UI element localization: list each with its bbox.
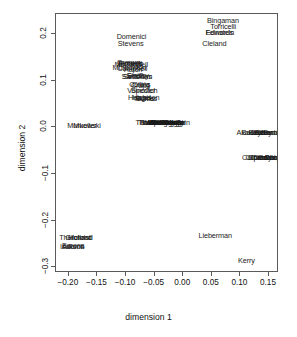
y-axis-tick	[51, 266, 55, 267]
x-axis-tick-label: 0.10	[231, 279, 247, 287]
y-axis-tick	[51, 80, 55, 81]
data-point-label: Nickles	[134, 95, 157, 102]
data-point-label: McCain	[166, 119, 190, 126]
data-point-label: Cleland	[202, 40, 226, 47]
data-point-label: Mueller	[73, 122, 96, 129]
x-axis-tick	[125, 272, 126, 276]
plot-area: BingamanTorricelliFeinsteinEdwardsClelan…	[55, 13, 278, 272]
x-axis-tick-label: −0.10	[115, 279, 136, 287]
y-axis-tick	[51, 126, 55, 127]
x-axis-tick	[239, 272, 240, 276]
x-axis-tick	[268, 272, 269, 276]
x-axis-title: dimension 1	[0, 312, 297, 322]
x-axis-tick-label: −0.05	[143, 279, 164, 287]
y-axis-title: dimension 2	[17, 88, 27, 208]
x-axis-tick	[68, 272, 69, 276]
x-axis-tick-label: 0.15	[260, 279, 276, 287]
x-axis-tick-label: 0.00	[174, 279, 190, 287]
data-point-labels: BingamanTorricelliFeinsteinEdwardsClelan…	[56, 14, 277, 271]
y-axis-tick-label: 0.2	[40, 27, 48, 38]
y-axis-tick-label: −0.1	[42, 165, 50, 181]
y-axis-tick-label: −0.2	[42, 211, 50, 227]
y-axis-tick	[51, 220, 55, 221]
data-point-label: Lieberman	[198, 233, 232, 240]
x-axis-tick-label: 0.05	[203, 279, 219, 287]
y-axis-tick-label: 0.1	[40, 74, 48, 85]
data-point-label: Edwards	[206, 30, 234, 37]
data-point-label: Barons	[62, 243, 85, 250]
x-axis-tick	[154, 272, 155, 276]
mds-scatter-figure: BingamanTorricelliFeinsteinEdwardsClelan…	[0, 0, 297, 337]
data-point-label: Kyl	[131, 61, 141, 68]
data-point-label: Kerry	[238, 257, 255, 264]
y-axis-tick-label: −0.3	[42, 258, 50, 274]
data-point-label: Cantwell	[261, 130, 278, 137]
y-axis-tick	[51, 173, 55, 174]
x-axis-tick	[182, 272, 183, 276]
data-point-label: Holland	[69, 234, 93, 241]
data-point-label: Stevens	[118, 40, 144, 47]
x-axis-tick	[96, 272, 97, 276]
x-axis-tick-label: −0.20	[58, 279, 79, 287]
data-point-label: Dorgan	[265, 155, 278, 162]
x-axis-tick-label: −0.15	[86, 279, 107, 287]
x-axis-tick	[211, 272, 212, 276]
y-axis-tick	[51, 33, 55, 34]
y-axis-tick-label: 0.0	[40, 120, 48, 131]
